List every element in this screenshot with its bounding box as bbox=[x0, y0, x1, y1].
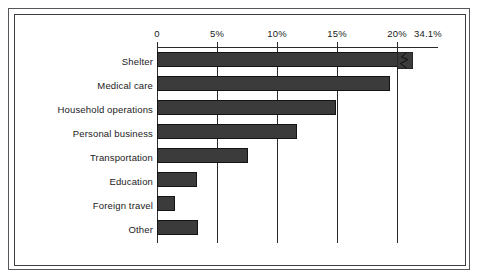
bar-household-operations bbox=[157, 100, 336, 115]
category-label-foreign-travel: Foreign travel bbox=[93, 201, 153, 211]
bar-medical-care bbox=[157, 76, 390, 91]
bar-foreign-travel bbox=[157, 196, 175, 211]
category-label-shelter: Shelter bbox=[122, 57, 153, 67]
category-label-transportation: Transportation bbox=[90, 153, 153, 163]
x-axis-rule bbox=[157, 47, 438, 48]
category-label-medical-care: Medical care bbox=[97, 81, 153, 91]
x-tick-label-0: 0 bbox=[154, 28, 159, 39]
x-tick-label-10: 10% bbox=[267, 28, 287, 39]
category-label-household-operations: Household operations bbox=[58, 105, 153, 115]
bar-transportation bbox=[157, 148, 248, 163]
x-axis-break-value-label: 34.1% bbox=[414, 28, 442, 39]
category-label-personal-business: Personal business bbox=[73, 129, 153, 139]
bar-personal-business bbox=[157, 124, 297, 139]
x-tick-label-20: 20% bbox=[387, 28, 407, 39]
category-label-other: Other bbox=[128, 225, 153, 235]
x-tick-label-15: 15% bbox=[327, 28, 347, 39]
bar-chart: 0 5% 10% 15% 20% 34.1% Shelter Medical c… bbox=[0, 0, 480, 280]
bar-education bbox=[157, 172, 197, 187]
bar-other bbox=[157, 220, 198, 235]
category-label-education: Education bbox=[109, 177, 153, 187]
gridline-20 bbox=[397, 47, 398, 243]
x-tick-label-5: 5% bbox=[210, 28, 224, 39]
axis-break-zigzag-icon bbox=[397, 52, 413, 69]
bar-shelter bbox=[157, 52, 413, 67]
